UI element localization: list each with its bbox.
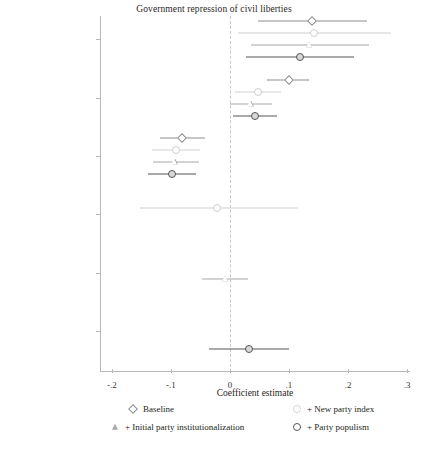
chart-title: Government repression of civil liberties	[0, 4, 428, 14]
x-axis-tick	[407, 369, 408, 373]
y-axis-tick	[96, 39, 100, 40]
legend-item-label: + New party index	[307, 404, 374, 414]
marker-diamond-icon	[284, 75, 294, 85]
legend-item[interactable]: + Party populism	[292, 422, 369, 432]
y-axis-tick	[96, 214, 100, 215]
legend-marker-triangle-icon	[110, 422, 120, 432]
legend-item-label: Baseline	[143, 404, 174, 414]
legend-item[interactable]: Baseline	[128, 404, 174, 414]
marker-circle-dark-icon	[296, 53, 304, 61]
x-axis-tick	[171, 369, 172, 373]
marker-circle-light-icon	[254, 88, 262, 96]
coefficient-plot: Government repression of civil liberties…	[0, 0, 428, 453]
x-axis-tick	[112, 369, 113, 373]
legend-item-label: + Party populism	[307, 422, 369, 432]
y-axis-line	[100, 16, 101, 372]
x-axis-tick	[348, 369, 349, 373]
x-axis-tick	[289, 369, 290, 373]
y-axis-tick	[96, 98, 100, 99]
y-axis-tick	[96, 156, 100, 157]
marker-diamond-icon	[177, 133, 187, 143]
marker-triangle-icon	[172, 158, 178, 164]
marker-triangle-icon	[222, 275, 228, 281]
marker-circle-light-icon	[310, 29, 318, 37]
legend-marker-circle-dark-icon	[292, 422, 302, 432]
x-axis-line	[100, 371, 410, 372]
marker-circle-dark-icon	[168, 170, 176, 178]
legend-marker-circle-light-icon	[292, 404, 302, 414]
zero-reference-line	[230, 16, 231, 372]
legend-item[interactable]: + Initial party institutionalization	[110, 422, 244, 432]
legend-marker-diamond-icon	[128, 404, 138, 414]
x-axis-tick	[230, 369, 231, 373]
marker-circle-dark-icon	[245, 345, 253, 353]
marker-circle-light-icon	[213, 204, 221, 212]
marker-triangle-icon	[306, 42, 312, 48]
legend-item-label: + Initial party institutionalization	[125, 422, 244, 432]
marker-diamond-icon	[307, 16, 317, 26]
x-axis-label: Coefficient estimate	[100, 388, 410, 398]
plot-area: -.2-.10.1.2.3Party personalismDemocracy …	[100, 16, 410, 372]
marker-circle-light-icon	[172, 146, 180, 154]
y-axis-tick	[96, 273, 100, 274]
marker-circle-dark-icon	[251, 112, 259, 120]
marker-triangle-icon	[248, 100, 254, 106]
legend-item[interactable]: + New party index	[292, 404, 374, 414]
y-axis-tick	[96, 331, 100, 332]
